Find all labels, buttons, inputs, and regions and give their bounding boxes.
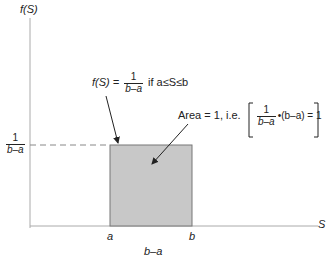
area-den: b–a bbox=[257, 116, 276, 128]
y-tick-label: 1b–a bbox=[4, 133, 27, 155]
x-axis-label: S bbox=[318, 219, 325, 230]
x-tick-b: b bbox=[189, 231, 195, 242]
area-suffix: •(b–a) = 1 bbox=[278, 110, 322, 121]
pdf-den: b–a bbox=[124, 83, 143, 95]
y-tick-num: 1 bbox=[12, 133, 20, 144]
probability-area-rect bbox=[110, 145, 192, 226]
pdf-num: 1 bbox=[130, 72, 138, 83]
area-annotation-expr: 1b–a•(b–a) = 1 bbox=[255, 105, 322, 127]
area-num: 1 bbox=[263, 105, 271, 116]
pdf-arrow bbox=[106, 96, 118, 143]
pdf-condition: if a≤S≤b bbox=[148, 76, 188, 88]
y-tick-den: b–a bbox=[6, 144, 25, 156]
uniform-distribution-diagram: f(S) S 1b–a a b b–a f(S) = 1b–a if a≤S≤b… bbox=[0, 0, 328, 260]
left-bracket bbox=[249, 103, 253, 137]
area-annotation-prefix: Area = 1, i.e. bbox=[178, 110, 241, 121]
pdf-lhs: f(S) = bbox=[92, 76, 119, 88]
diagram-graphics bbox=[0, 0, 328, 260]
y-axis-label: f(S) bbox=[20, 4, 38, 15]
pdf-annotation: f(S) = 1b–a if a≤S≤b bbox=[92, 72, 188, 94]
x-tick-a: a bbox=[107, 231, 113, 242]
width-label: b–a bbox=[144, 246, 162, 257]
